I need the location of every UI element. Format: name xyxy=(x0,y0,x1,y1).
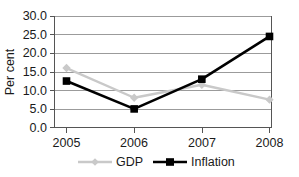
x-tick-label: 2005 xyxy=(53,136,81,150)
y-tick-label: 5.0 xyxy=(30,102,47,116)
y-tick-label: 10.0 xyxy=(23,84,47,98)
chart-canvas: 30.0 25.0 20.0 15.0 10.0 5.0 0.0 Per cen… xyxy=(0,0,299,177)
legend-gdp-label: GDP xyxy=(116,155,143,169)
y-axis-title: Per cent xyxy=(3,48,17,95)
x-tick-label: 2006 xyxy=(120,136,148,150)
x-tick-label: 2008 xyxy=(256,136,284,150)
y-tick-label: 25.0 xyxy=(23,28,47,42)
square-marker-icon xyxy=(63,77,71,85)
y-tick-label: 0.0 xyxy=(30,121,47,135)
square-marker-icon xyxy=(198,75,206,83)
square-marker-icon xyxy=(166,158,174,166)
y-tick-label: 15.0 xyxy=(23,65,47,79)
square-marker-icon xyxy=(266,33,274,41)
y-tick-label: 20.0 xyxy=(23,46,47,60)
y-tick-label: 30.0 xyxy=(23,9,47,23)
square-marker-icon xyxy=(130,105,138,113)
legend-inflation-label: Inflation xyxy=(191,155,235,169)
x-tick-label: 2007 xyxy=(188,136,216,150)
line-chart: 30.0 25.0 20.0 15.0 10.0 5.0 0.0 Per cen… xyxy=(0,0,299,177)
